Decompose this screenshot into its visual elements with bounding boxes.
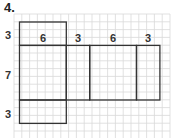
label-width-1: 6: [40, 32, 46, 44]
label-top-height: 3: [5, 29, 11, 41]
label-width-2: 6: [110, 32, 116, 44]
net-diagram: [0, 0, 171, 138]
label-bottom-height: 3: [5, 108, 11, 120]
label-depth-2: 3: [145, 32, 151, 44]
bottom-face: [20, 100, 67, 123]
label-depth-1: 3: [75, 32, 81, 44]
label-height: 7: [5, 69, 11, 81]
